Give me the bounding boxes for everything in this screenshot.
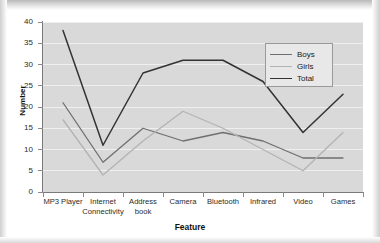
scan-edge-right [372,0,380,243]
y-tick [38,64,43,65]
x-axis-title: Feature [150,222,230,232]
x-tick-label-line: book [115,207,171,217]
legend-item-total[interactable]: Total [266,72,332,84]
scan-edge-left [0,0,7,243]
y-tick-label: 0 [7,188,33,196]
legend-label: Girls [297,62,313,71]
y-tick [38,85,43,86]
legend-item-girls[interactable]: Girls [266,60,332,72]
y-tick-label: 5 [7,167,33,175]
chart-legend: BoysGirlsTotal [265,43,333,87]
x-tick-label: Games [315,197,371,207]
y-tick-label: 30 [7,61,33,69]
scan-edge-top [0,0,380,10]
y-tick-label: 35 [7,39,33,47]
legend-item-boys[interactable]: Boys [266,48,332,60]
x-tick-label-line: Games [315,197,371,207]
x-tick [363,192,364,197]
y-tick-label: 10 [7,146,33,154]
y-tick [38,43,43,44]
legend-swatch-girls-icon [270,66,292,67]
series-line-boys [63,103,343,163]
line-chart: 0510152025303540 MP3 PlayerInternetConne… [0,0,380,243]
y-tick [38,128,43,129]
y-tick [38,22,43,23]
y-axis-title: Number [18,71,27,131]
y-tick [38,170,43,171]
legend-swatch-total-icon [270,78,292,79]
legend-label: Total [297,74,314,83]
y-tick-label: 40 [7,18,33,26]
y-tick [38,149,43,150]
y-tick [38,107,43,108]
legend-swatch-boys-icon [270,54,292,55]
scan-edge-bottom [0,237,380,243]
legend-label: Boys [297,50,315,59]
